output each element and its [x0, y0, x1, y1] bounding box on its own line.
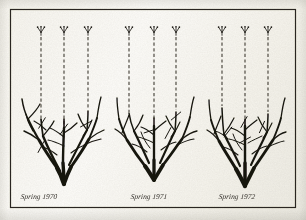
primary-branch [39, 140, 57, 168]
bud-glyph-icon [125, 26, 134, 35]
secondary-branch [175, 112, 176, 131]
dashed-growth-guides-1970 [41, 37, 88, 126]
twig [134, 115, 143, 131]
bud-glyph-icon [172, 26, 181, 35]
dashed-growth-guides-1971 [129, 37, 176, 120]
tertiary-branch [281, 98, 285, 118]
bud-glyphs-1970 [37, 26, 93, 35]
primary-branch [127, 140, 145, 166]
panel-1972: Spring 1972 [207, 26, 286, 201]
dashed-growth-guides-1972 [222, 37, 268, 118]
bud-glyphs-1972 [218, 26, 273, 35]
secondary-branch [129, 113, 134, 131]
figure-canvas: Spring 1970 [0, 0, 306, 220]
panel-caption-1971: Spring 1971 [130, 192, 167, 201]
stem-base [63, 163, 64, 184]
tertiary-branch [190, 97, 194, 117]
primary-branch [219, 141, 236, 169]
pruning-cut-mark [165, 128, 171, 139]
bud-glyph-icon [37, 26, 46, 35]
secondary-branch [87, 111, 88, 130]
secondary-branch [267, 114, 268, 132]
tertiary-branch [97, 97, 101, 118]
tertiary-branch [117, 98, 119, 119]
bud-glyphs-1971 [125, 26, 181, 35]
twig [64, 123, 77, 133]
shrub-1970 [22, 97, 104, 184]
panel-1971: Spring 1971 [115, 26, 197, 201]
pruning-illustration: Spring 1970 [0, 0, 306, 220]
twig [224, 118, 234, 134]
twig [78, 114, 87, 130]
bud-glyph-icon [241, 26, 250, 35]
twig [122, 115, 129, 133]
bud-glyph-icon [150, 26, 159, 35]
shrub-1972 [207, 98, 286, 186]
tertiary-branch [22, 99, 28, 119]
bud-glyph-icon [264, 26, 273, 35]
bud-glyph-icon [218, 26, 227, 35]
panel-1970: Spring 1970 [20, 26, 104, 201]
bud-glyph-icon [60, 26, 69, 35]
panel-caption-1972: Spring 1972 [218, 192, 255, 201]
tertiary-branch [209, 100, 211, 120]
panel-caption-1970: Spring 1970 [20, 192, 57, 201]
twig [258, 117, 267, 132]
twig [28, 104, 40, 119]
twig [245, 120, 257, 130]
shrub-1971 [115, 97, 197, 180]
primary-branch [134, 131, 149, 163]
twig [141, 127, 154, 135]
secondary-branch [222, 108, 224, 134]
twig [48, 140, 64, 146]
bud-glyph-icon [84, 26, 93, 35]
